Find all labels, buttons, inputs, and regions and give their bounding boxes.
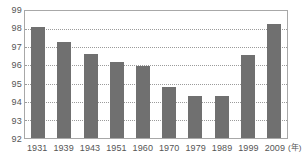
bar-slot — [130, 11, 156, 138]
y-axis-tick-label: 93 — [0, 116, 22, 125]
y-axis-tick-label: 95 — [0, 79, 22, 88]
x-axis-tick-label: 1939 — [50, 142, 76, 156]
bar-slot — [104, 11, 130, 138]
bar-slot — [208, 11, 234, 138]
bar — [241, 55, 255, 138]
y-axis-tick-label: 96 — [0, 61, 22, 70]
y-axis: 9998979695949392 — [0, 10, 22, 139]
x-axis: 1931193919431951196019701979198919992009 — [24, 142, 288, 156]
x-axis-tick-label: 1931 — [24, 142, 50, 156]
bar — [110, 62, 124, 138]
x-axis-tick-label: 1979 — [182, 142, 208, 156]
bar-slot — [51, 11, 77, 138]
y-axis-tick-label: 92 — [0, 135, 22, 144]
bar — [162, 87, 176, 138]
bar-slot — [261, 11, 287, 138]
plot-area — [24, 10, 288, 139]
x-axis-tick-label: 2009 — [262, 142, 288, 156]
x-axis-tick-label: 1960 — [130, 142, 156, 156]
bar — [188, 96, 202, 138]
bars — [25, 11, 287, 138]
bar-slot — [25, 11, 51, 138]
y-axis-tick-label: 99 — [0, 6, 22, 15]
x-axis-tick-label: 1943 — [77, 142, 103, 156]
x-axis-tick-label: 1951 — [103, 142, 129, 156]
y-axis-tick-label: 94 — [0, 98, 22, 107]
bar — [215, 96, 229, 138]
bar-chart: 9998979695949392 19311939194319511960197… — [0, 0, 305, 167]
bar-slot — [182, 11, 208, 138]
bar-slot — [156, 11, 182, 138]
bar-slot — [77, 11, 103, 138]
x-axis-tick-label: 1970 — [156, 142, 182, 156]
x-axis-unit-label: (年) — [288, 142, 301, 154]
bar — [57, 42, 71, 138]
bar — [267, 24, 281, 138]
y-axis-tick-label: 98 — [0, 24, 22, 33]
bar-slot — [235, 11, 261, 138]
bar — [84, 54, 98, 138]
x-axis-tick-label: 1989 — [209, 142, 235, 156]
bar — [31, 27, 45, 138]
y-axis-tick-label: 97 — [0, 42, 22, 51]
x-axis-tick-label: 1999 — [235, 142, 261, 156]
bar — [136, 66, 150, 138]
